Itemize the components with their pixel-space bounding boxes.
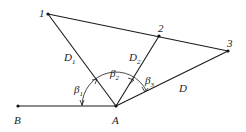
segment-1-3 bbox=[48, 14, 228, 51]
label-point-2: 2 bbox=[158, 22, 164, 34]
label-beta2: β2 bbox=[109, 67, 119, 82]
point-A bbox=[114, 104, 117, 107]
label-point-1: 1 bbox=[39, 7, 45, 19]
label-beta2-sub: 2 bbox=[115, 74, 119, 82]
point-2 bbox=[157, 34, 160, 37]
label-D2-sub: 2 bbox=[137, 58, 141, 66]
label-D1-sub: 1 bbox=[72, 58, 76, 66]
label-point-A: A bbox=[111, 114, 119, 126]
label-point-B: B bbox=[14, 114, 21, 126]
label-beta3-sub: 3 bbox=[149, 81, 154, 89]
label-D2-main: D bbox=[128, 51, 137, 63]
label-beta3: β3 bbox=[144, 74, 154, 89]
label-beta1: β1 bbox=[73, 83, 83, 98]
label-beta1-sub: 1 bbox=[79, 90, 83, 98]
label-D1: D1 bbox=[63, 51, 75, 66]
point-B bbox=[16, 104, 19, 107]
label-D1-main: D bbox=[63, 51, 72, 63]
label-point-3: 3 bbox=[226, 37, 233, 49]
point-1 bbox=[46, 12, 49, 15]
traverse-diagram: B A 1 2 3 D1 D2 D β1 β2 β3 bbox=[0, 0, 246, 132]
point-3 bbox=[226, 49, 229, 52]
label-D: D bbox=[178, 82, 187, 94]
label-D2: D2 bbox=[128, 51, 141, 66]
